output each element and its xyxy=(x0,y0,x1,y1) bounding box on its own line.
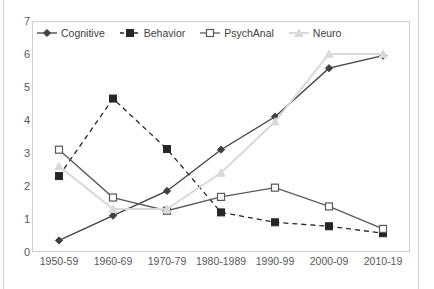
data-point xyxy=(110,194,117,201)
data-point xyxy=(380,225,387,232)
legend-item-behavior[interactable]: Behavior xyxy=(119,27,185,39)
legend-item-label: Cognitive xyxy=(61,28,105,39)
data-point xyxy=(272,184,279,191)
series-neuro xyxy=(55,50,387,213)
legend-item-label: Behavior xyxy=(144,28,185,39)
data-point xyxy=(55,237,62,244)
y-axis-tick-label: 1 xyxy=(4,214,30,225)
chart-container: 01234567 1950-591960-691970-791980-19891… xyxy=(0,0,434,289)
y-axis-tick-label: 7 xyxy=(4,16,30,27)
legend-item-label: PsychAnal xyxy=(224,28,274,39)
triangle-icon xyxy=(288,27,310,39)
filled-square-icon xyxy=(119,27,141,39)
legend-item-label: Neuro xyxy=(313,28,342,39)
legend-item-psychanal[interactable]: PsychAnal xyxy=(199,27,274,39)
data-point xyxy=(272,219,279,226)
x-axis: 1950-591960-691970-791980-19891990-99200… xyxy=(32,256,410,276)
legend-item-neuro[interactable]: Neuro xyxy=(288,27,342,39)
data-point xyxy=(164,146,171,153)
x-axis-tick-label: 2000-09 xyxy=(310,256,349,267)
y-axis-tick-label: 5 xyxy=(4,82,30,93)
y-axis-tick-label: 6 xyxy=(4,49,30,60)
data-point xyxy=(109,212,116,219)
y-axis-tick-label: 2 xyxy=(4,181,30,192)
y-axis: 01234567 xyxy=(0,0,30,289)
open-square-icon xyxy=(199,27,221,39)
chart-legend: CognitiveBehaviorPsychAnalNeuro xyxy=(36,25,341,41)
x-axis-tick-label: 1970-79 xyxy=(148,256,187,267)
legend-item-cognitive[interactable]: Cognitive xyxy=(36,27,105,39)
y-axis-tick-label: 4 xyxy=(4,115,30,126)
x-axis-tick-label: 1980-1989 xyxy=(196,256,246,267)
x-axis-tick-label: 1990-99 xyxy=(256,256,295,267)
filled-diamond-icon xyxy=(36,27,58,39)
chart-series-layer xyxy=(32,21,410,252)
data-point xyxy=(326,203,333,210)
data-point xyxy=(56,173,63,180)
data-point xyxy=(218,193,225,200)
x-axis-tick-label: 1950-59 xyxy=(40,256,79,267)
data-point xyxy=(326,223,333,230)
y-axis-tick-label: 3 xyxy=(4,148,30,159)
data-point xyxy=(56,146,63,153)
data-point xyxy=(218,209,225,216)
series-behavior xyxy=(56,95,387,237)
series-line xyxy=(59,54,383,209)
y-axis-tick-label: 0 xyxy=(4,247,30,258)
series-line xyxy=(59,150,383,229)
x-axis-tick-label: 2010-19 xyxy=(364,256,403,267)
data-point xyxy=(110,95,117,102)
data-point xyxy=(55,162,63,169)
x-axis-tick-label: 1960-69 xyxy=(94,256,133,267)
frame-right-border xyxy=(418,0,419,289)
